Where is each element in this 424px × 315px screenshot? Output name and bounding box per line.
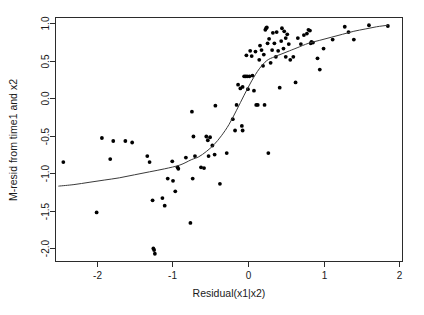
y-tick-label-2: 0.0	[40, 91, 51, 105]
data-point	[189, 221, 193, 225]
y-tick-label-3: -0.5	[40, 127, 51, 145]
data-point	[271, 31, 275, 35]
data-point	[248, 49, 252, 53]
scatter-plot-figure: -2-1012 1.00.50.0-0.5-1.0-1.5-2.0 Residu…	[0, 0, 424, 315]
data-point	[192, 135, 196, 139]
data-point	[282, 29, 286, 33]
data-point	[235, 103, 239, 107]
data-point	[161, 196, 165, 200]
data-point	[206, 138, 210, 142]
data-point	[275, 30, 279, 34]
plot-border	[56, 18, 403, 262]
plot-frame	[56, 18, 403, 262]
data-point	[282, 47, 286, 51]
data-point	[367, 23, 371, 27]
data-point	[173, 189, 177, 193]
data-point	[184, 156, 188, 160]
data-point	[153, 252, 157, 256]
plot-canvas: -2-1012 1.00.50.0-0.5-1.0-1.5-2.0 Residu…	[0, 0, 424, 315]
data-point	[245, 53, 249, 57]
data-point	[272, 41, 276, 45]
data-point	[308, 29, 312, 33]
data-point	[284, 36, 288, 40]
data-point	[240, 124, 244, 128]
data-point	[288, 58, 292, 62]
data-point	[352, 38, 356, 42]
data-point	[152, 248, 156, 252]
data-point	[170, 159, 174, 163]
data-point	[130, 141, 134, 145]
data-point	[123, 139, 127, 143]
data-point	[287, 42, 291, 46]
data-point	[296, 36, 300, 40]
data-point	[269, 61, 273, 65]
data-point	[95, 211, 99, 215]
data-point	[218, 182, 222, 186]
y-tick-label-1: 0.5	[40, 54, 51, 68]
scatter-points-group	[61, 23, 389, 255]
x-tick-label-0: -2	[93, 270, 102, 281]
data-point	[241, 129, 245, 133]
y-tick-label-0: 1.0	[40, 16, 51, 30]
data-point	[190, 110, 194, 114]
x-tick-label-3: 1	[322, 270, 328, 281]
data-point	[291, 55, 295, 59]
data-point	[265, 26, 269, 30]
data-point	[294, 80, 298, 84]
data-point	[257, 58, 261, 62]
data-point	[233, 129, 237, 133]
data-point	[343, 25, 347, 29]
x-axis-tick-labels: -2-1012	[93, 270, 403, 281]
data-point	[256, 103, 260, 107]
fitted-curve	[59, 25, 388, 186]
data-point	[267, 37, 271, 41]
data-point	[213, 153, 217, 157]
data-point	[270, 48, 274, 52]
data-point	[285, 32, 289, 36]
x-axis-ticks	[98, 262, 400, 267]
data-point	[280, 26, 284, 30]
fitted-curve-group	[59, 25, 388, 186]
data-point	[100, 136, 104, 140]
data-point	[202, 166, 206, 170]
data-point	[305, 32, 309, 36]
data-point	[208, 135, 212, 139]
data-point	[258, 44, 262, 48]
data-point	[278, 86, 282, 90]
x-axis-title: Residual(x1|x2)	[193, 287, 266, 299]
data-point	[252, 89, 256, 93]
data-point	[276, 49, 280, 53]
y-tick-label-4: -1.0	[40, 164, 51, 182]
data-point	[145, 154, 149, 158]
data-point	[207, 154, 211, 158]
data-point	[284, 55, 288, 59]
x-tick-label-2: 0	[246, 270, 252, 281]
x-tick-label-4: 2	[397, 270, 403, 281]
y-axis-tick-labels: 1.00.50.0-0.5-1.0-1.5-2.0	[40, 16, 51, 257]
data-point	[191, 177, 195, 181]
data-point	[279, 39, 283, 43]
data-point	[163, 204, 167, 208]
data-point	[166, 177, 170, 181]
data-point	[322, 47, 326, 51]
y-axis-title: M-resid from time1 and x2	[7, 79, 19, 201]
data-point	[266, 151, 270, 155]
data-point	[241, 85, 245, 89]
data-point	[176, 167, 180, 171]
data-point	[262, 53, 266, 57]
y-axis-ticks	[50, 24, 55, 249]
data-point	[171, 179, 175, 183]
data-point	[148, 160, 152, 164]
data-point	[225, 151, 229, 155]
data-point	[108, 157, 112, 161]
data-point	[204, 135, 208, 139]
data-point	[263, 103, 267, 107]
data-point	[236, 83, 240, 87]
data-point	[151, 198, 155, 202]
data-point	[266, 41, 270, 45]
y-tick-label-5: -1.5	[40, 202, 51, 220]
data-point	[250, 54, 254, 58]
data-point	[260, 48, 264, 52]
data-point	[386, 24, 390, 28]
data-point	[213, 104, 217, 108]
